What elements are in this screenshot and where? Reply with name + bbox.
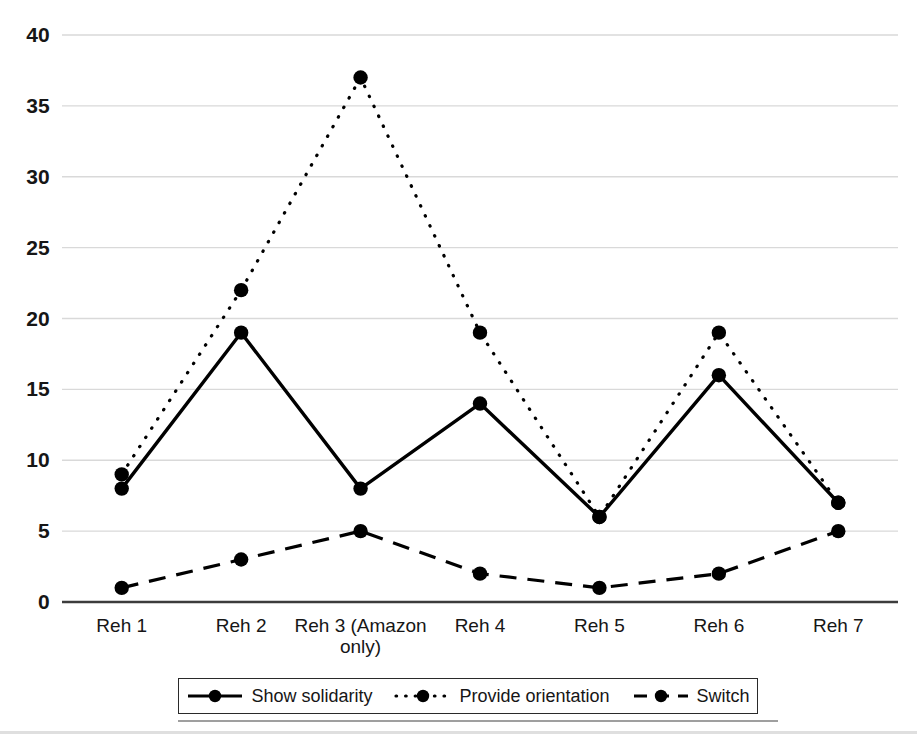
data-point bbox=[234, 552, 248, 566]
data-point bbox=[115, 581, 129, 595]
y-tick-label: 40 bbox=[4, 24, 50, 45]
gridlines bbox=[62, 35, 898, 531]
y-tick-label: 25 bbox=[4, 237, 50, 258]
y-tick-label: 35 bbox=[4, 95, 50, 116]
chart-legend: Show solidarity Provide orientation Swit… bbox=[178, 678, 758, 714]
data-point bbox=[473, 396, 487, 410]
data-point bbox=[712, 325, 726, 339]
series-provide-orientation bbox=[115, 70, 846, 524]
line-chart: 0510152025303540 Reh 1Reh 2Reh 3 (Amazon… bbox=[0, 0, 917, 738]
data-point bbox=[115, 467, 129, 481]
data-point bbox=[712, 368, 726, 382]
series-line bbox=[122, 333, 839, 517]
legend-item-switch: Switch bbox=[632, 686, 750, 706]
legend-label-provide-orientation: Provide orientation bbox=[459, 687, 609, 705]
legend-swatch-dashed-line bbox=[632, 686, 690, 706]
legend-swatch-solid-line bbox=[186, 686, 244, 706]
data-point bbox=[831, 496, 845, 510]
legend-item-provide-orientation: Provide orientation bbox=[394, 686, 609, 706]
legend-label-switch: Switch bbox=[697, 687, 750, 705]
data-point bbox=[234, 283, 248, 297]
data-point bbox=[353, 524, 367, 538]
series-show-solidarity bbox=[115, 325, 846, 524]
y-tick-label: 30 bbox=[4, 166, 50, 187]
scan-artifact-line bbox=[178, 720, 778, 722]
scan-artifact-bottom bbox=[0, 731, 917, 734]
data-point bbox=[473, 566, 487, 580]
data-point bbox=[115, 481, 129, 495]
data-point bbox=[353, 481, 367, 495]
x-tick-label: Reh 7 bbox=[766, 615, 911, 636]
y-tick-label: 20 bbox=[4, 308, 50, 329]
data-point bbox=[234, 325, 248, 339]
data-point bbox=[473, 325, 487, 339]
y-tick-label: 10 bbox=[4, 449, 50, 470]
data-point bbox=[712, 566, 726, 580]
y-tick-label: 0 bbox=[4, 591, 50, 612]
series-line bbox=[122, 78, 839, 517]
legend-label-show-solidarity: Show solidarity bbox=[251, 687, 372, 705]
series-switch bbox=[115, 524, 846, 595]
data-point bbox=[353, 70, 367, 84]
data-point bbox=[592, 581, 606, 595]
legend-swatch-dotted-line bbox=[394, 686, 452, 706]
data-point bbox=[831, 524, 845, 538]
data-point bbox=[592, 510, 606, 524]
y-tick-label: 15 bbox=[4, 378, 50, 399]
y-tick-label: 5 bbox=[4, 520, 50, 541]
legend-item-show-solidarity: Show solidarity bbox=[186, 686, 372, 706]
series-layer bbox=[115, 70, 846, 595]
